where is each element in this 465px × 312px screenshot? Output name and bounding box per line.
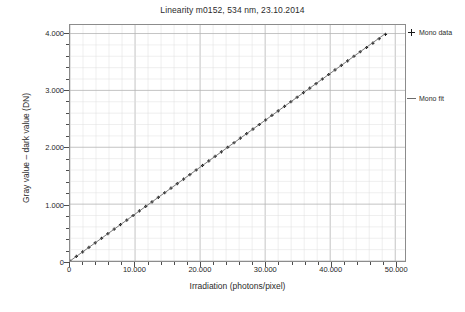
plus-marker-icon: [407, 28, 416, 37]
line-marker-icon: [407, 94, 416, 103]
x-tick-label: 20.000: [188, 265, 211, 274]
x-axis-tick-labels: 010.00020.00030.00040.00050.000: [0, 0, 465, 312]
legend-label-mono-data: Mono data: [419, 29, 452, 36]
x-tick-label: 0: [67, 265, 71, 274]
legend-label-mono-fit: Mono fit: [419, 95, 444, 102]
x-axis-title: Irradiation (photons/pixel): [69, 281, 406, 291]
x-tick-label: 50.000: [385, 265, 408, 274]
legend-item-mono-fit[interactable]: Mono fit: [407, 94, 444, 103]
chart-legend: Mono data Mono fit: [407, 24, 465, 262]
legend-item-mono-data[interactable]: Mono data: [407, 28, 452, 37]
x-tick-label: 10.000: [123, 265, 146, 274]
x-tick-label: 30.000: [254, 265, 277, 274]
y-axis-title: Gray value – dark value (DN): [21, 48, 31, 248]
x-tick-label: 40.000: [319, 265, 342, 274]
linearity-chart-figure: Linearity m0152, 534 nm, 23.10.2014 01.0…: [0, 0, 465, 312]
